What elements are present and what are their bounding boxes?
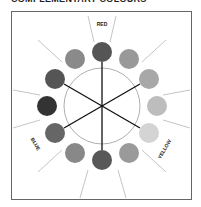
swatch-orange xyxy=(139,69,159,89)
swatch-blue-green xyxy=(65,143,85,163)
label-red: RED xyxy=(97,21,108,27)
swatch-violet xyxy=(45,69,65,89)
label-yellow: YELLOW xyxy=(156,138,172,160)
colour-wheel: RED YELLOW BLUE xyxy=(0,0,201,207)
swatch-yellow-green xyxy=(119,143,139,163)
swatch-red xyxy=(92,42,112,62)
swatch-yellow-orange xyxy=(147,96,167,116)
swatch-red-orange xyxy=(119,49,139,69)
swatch-red-violet xyxy=(65,49,85,69)
swatch-blue-violet xyxy=(37,96,57,116)
swatch-yellow xyxy=(139,123,159,143)
swatch-blue xyxy=(45,123,65,143)
label-blue: BLUE xyxy=(30,137,42,152)
swatch-green xyxy=(92,150,112,170)
